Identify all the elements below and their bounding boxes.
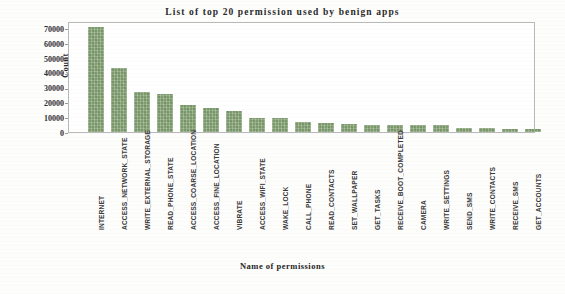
plot-area: Count [68, 22, 535, 133]
y-axis-tick-mark [65, 118, 68, 119]
y-axis-tick-label: 60000 [22, 40, 64, 49]
bar [364, 125, 380, 132]
bar [341, 124, 357, 132]
bar [88, 27, 104, 132]
x-axis-tick-label: ACCESS_COARSE_LOCATION [190, 130, 197, 230]
y-axis-tick-mark [65, 74, 68, 75]
y-axis-tick-mark [65, 103, 68, 104]
bar [180, 105, 196, 132]
bar [479, 128, 495, 132]
y-axis-tick-label: 10000 [22, 114, 64, 123]
x-axis-tick-label: ACCESS_FINE_LOCATION [213, 143, 220, 230]
y-axis-tick-mark [65, 44, 68, 45]
y-axis-tick-label: 30000 [22, 84, 64, 93]
bars-layer [69, 23, 534, 132]
bar [318, 123, 334, 132]
y-axis-tick-label: 40000 [22, 69, 64, 78]
y-axis-tick-label: 20000 [22, 99, 64, 108]
x-axis-tick-label: GET_TASKS [374, 190, 381, 230]
x-axis-tick-label: VIBRATE [236, 200, 243, 230]
x-axis-tick-label: WRITE_EXTERNAL_STORAGE [144, 130, 151, 230]
x-axis-tick-label: RECEIVE_BOOT_COMPLETED [397, 130, 404, 230]
x-axis-tick-label: CAMERA [420, 200, 427, 230]
x-axis-tick-label: RECEIVE_SMS [512, 181, 519, 230]
bar [157, 94, 173, 132]
bar [272, 118, 288, 132]
bar [525, 129, 541, 132]
x-axis-tick-label: ACCESS_NETWORK_STATE [121, 137, 128, 230]
x-axis-tick-label: WRITE_CONTACTS [489, 167, 496, 230]
bar [295, 122, 311, 132]
bar [249, 118, 265, 132]
x-axis-label: Name of permissions [0, 261, 565, 271]
y-axis-tick-mark [65, 59, 68, 60]
x-axis-tick-label: CALL_PHONE [305, 184, 312, 230]
y-axis-tick-mark [65, 89, 68, 90]
bar [433, 125, 449, 132]
chart-title: List of top 20 permission used by benign… [0, 7, 565, 17]
x-axis-tick-label: READ_PHONE_STATE [167, 158, 174, 231]
y-axis-tick-mark [65, 29, 68, 30]
y-axis-tick-label: 50000 [22, 55, 64, 64]
y-axis-tick-label: 0 [22, 129, 64, 138]
figure-canvas: List of top 20 permission used by benign… [0, 0, 565, 294]
bar [203, 108, 219, 132]
x-axis-tick-label: WAKE_LOCK [282, 187, 289, 230]
x-axis-tick-label: INTERNET [98, 196, 105, 230]
x-axis-tick-label: ACCESS_WIFI_STATE [259, 158, 266, 230]
x-axis-tick-label: SEND_SMS [466, 193, 473, 230]
bar [502, 129, 518, 132]
y-axis-tick-label: 70000 [22, 25, 64, 34]
bar [456, 128, 472, 132]
bar [226, 111, 242, 132]
bar [134, 92, 150, 132]
y-axis-tick-mark [65, 133, 68, 134]
x-axis-tick-label: SET_WALLPAPER [351, 171, 358, 230]
bar [410, 125, 426, 132]
x-axis-tick-label: WRITE_SETTINGS [443, 170, 450, 230]
bar [111, 68, 127, 132]
x-axis-tick-label: READ_CONTACTS [328, 170, 335, 230]
x-axis-tick-label: GET_ACCOUNTS [535, 174, 542, 230]
